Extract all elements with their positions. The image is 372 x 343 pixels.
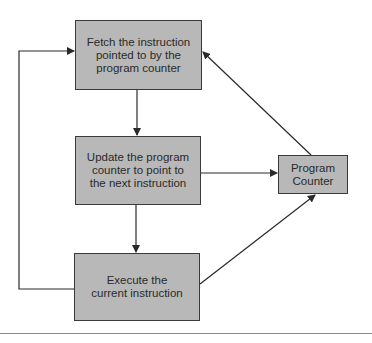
fetch-line-3: program counter [87, 62, 191, 75]
fetch-line-2: pointed to by the [87, 49, 191, 62]
execute-line-2: current instruction [91, 287, 182, 300]
pc-line-2: Counter [291, 175, 335, 188]
program-counter-box: Program Counter [278, 155, 348, 194]
pc-line-1: Program [291, 162, 335, 175]
fetch-line-1: Fetch the instruction [87, 36, 191, 49]
update-line-1: Update the program [87, 151, 189, 164]
update-program-counter-box: Update the program counter to point to t… [75, 136, 201, 205]
edge-pc-to-fetch [203, 52, 311, 155]
execute-instruction-box: Execute the current instruction [74, 253, 200, 321]
bottom-divider [0, 333, 372, 334]
fetch-instruction-box: Fetch the instruction pointed to by the … [75, 20, 202, 90]
edge-execute-to-fetch [19, 51, 74, 289]
edge-execute-to-pc [200, 195, 315, 284]
update-line-3: the next instruction [87, 177, 189, 190]
update-line-2: counter to point to [87, 164, 189, 177]
execute-line-1: Execute the [91, 274, 182, 287]
